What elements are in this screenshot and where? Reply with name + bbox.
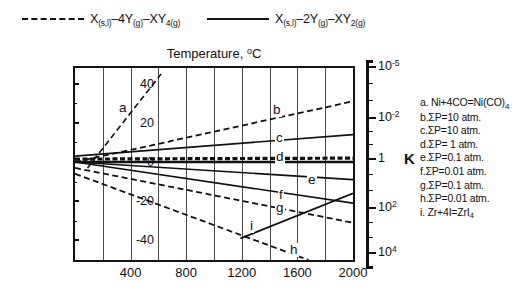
k-tick-minor-0-0	[369, 83, 373, 84]
y-tick-label-0: 0	[122, 155, 154, 169]
curve-label-e: e	[307, 173, 317, 187]
x-tick-label-1200: 1200	[220, 265, 264, 280]
y-tick--40	[73, 239, 79, 241]
annotation-i: i. Zr+4I=ZrI4	[420, 206, 514, 221]
k-tick-2	[369, 158, 376, 160]
annotation-e: e.ΣP=0.1 atm.	[420, 151, 514, 165]
k-tick-label-0: 10-5	[378, 59, 399, 73]
curve-label-d: d	[275, 150, 285, 164]
curves-layer	[75, 68, 353, 260]
legend-entry-di-label: X(s,l)–2Y(g)–XY2(g)	[275, 12, 365, 26]
curve-h	[75, 174, 309, 260]
legend-sample-solid-icon	[207, 18, 269, 20]
plot-inner	[75, 68, 353, 260]
x-tick-label-400: 400	[109, 265, 153, 280]
x-tick-label-1600: 1600	[275, 265, 319, 280]
y-tick-20	[73, 122, 79, 124]
annotation-g: g.ΣP=0.1 atm.	[420, 179, 514, 193]
x-tick-label-800: 800	[164, 265, 208, 280]
k-axis-title: K	[404, 150, 415, 167]
y-tick-label--40: -40	[122, 233, 154, 247]
y-tick-label-20: 20	[122, 116, 154, 130]
x-axis-title: Temperature, oC	[73, 46, 355, 61]
k-tick-minor-3-1	[369, 237, 373, 238]
annotation-list: a. Ni+4CO=Ni(CO)4b.ΣP=10 atm.c.ΣP=10 atm…	[420, 96, 514, 220]
k-tick-label-1: 10-2	[378, 110, 399, 124]
curve-label-h: h	[289, 243, 299, 257]
k-axis-cap-bottom	[366, 266, 373, 269]
curve-label-a: a	[118, 101, 128, 115]
k-tick-3	[369, 207, 376, 209]
curve-label-c: c	[275, 131, 284, 145]
annotation-b: b.ΣP=10 atm.	[420, 111, 514, 125]
y-tick-0	[73, 161, 79, 163]
y-tick-label--20: -20	[122, 194, 154, 208]
y-tick-minor-10	[73, 142, 77, 143]
plot-area	[73, 66, 355, 262]
curve-d	[75, 158, 353, 159]
curve-c	[75, 135, 353, 157]
annotation-d: d.ΣP= 1 atm.	[420, 138, 514, 152]
curve-label-b: b	[272, 103, 282, 117]
k-tick-minor-0-1	[369, 100, 373, 101]
k-tick-4	[369, 252, 376, 254]
curve-label-i: i	[249, 219, 254, 233]
y-tick-40	[73, 83, 79, 85]
legend-sample-dashed-icon	[22, 18, 84, 20]
k-axis-cap-top	[366, 60, 373, 63]
k-tick-1	[369, 117, 376, 119]
legend-entry-tetra-label: X(s,l)–4Y(g)–XY4(g)	[90, 12, 180, 26]
annotation-h: h.ΣP=0.01 atm.	[420, 192, 514, 206]
annotation-c: c.ΣP=10 atm.	[420, 124, 514, 138]
k-tick-minor-1-1	[369, 144, 373, 145]
legend: X(s,l)–4Y(g)–XY4(g) X(s,l)–2Y(g)–XY2(g)	[0, 8, 380, 38]
k-tick-0	[369, 66, 376, 68]
annotation-f: f.ΣP=0.01 atm.	[420, 165, 514, 179]
y-tick-minor--10	[73, 182, 77, 183]
y-tick-label-40: 40	[122, 77, 154, 91]
legend-entry-di: X(s,l)–2Y(g)–XY2(g)	[207, 12, 365, 26]
curve-i	[240, 193, 353, 238]
y-tick-minor-30	[73, 103, 77, 104]
k-tick-label-4: 104	[378, 245, 397, 259]
k-tick-minor-3-0	[369, 222, 373, 223]
curve-label-g: g	[275, 201, 285, 215]
k-tick-minor-2-0	[369, 174, 373, 175]
annotation-a: a. Ni+4CO=Ni(CO)4	[420, 96, 514, 111]
y-tick-minor--30	[73, 221, 77, 222]
k-tick-minor-2-1	[369, 190, 373, 191]
k-tick-label-3: 102	[378, 200, 397, 214]
k-tick-minor-1-0	[369, 131, 373, 132]
y-tick--20	[73, 200, 79, 202]
k-tick-label-2: 1	[378, 151, 385, 165]
legend-entry-tetra: X(s,l)–4Y(g)–XY4(g)	[22, 12, 180, 26]
